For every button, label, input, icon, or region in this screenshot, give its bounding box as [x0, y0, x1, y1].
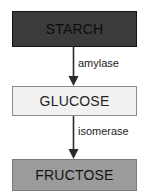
node-starch[interactable]: STARCH	[12, 11, 137, 47]
arrow-glucose-to-fructose	[69, 116, 79, 159]
edge-label-isomerase: isomerase	[78, 125, 129, 137]
node-fructose[interactable]: FRUCTOSE	[12, 159, 137, 191]
pathway-diagram: STARCH amylase GLUCOSE isomerase FRUCTOS…	[0, 0, 161, 193]
node-glucose[interactable]: GLUCOSE	[12, 86, 137, 116]
arrow-starch-to-glucose	[69, 47, 79, 86]
edge-label-amylase: amylase	[78, 57, 119, 69]
